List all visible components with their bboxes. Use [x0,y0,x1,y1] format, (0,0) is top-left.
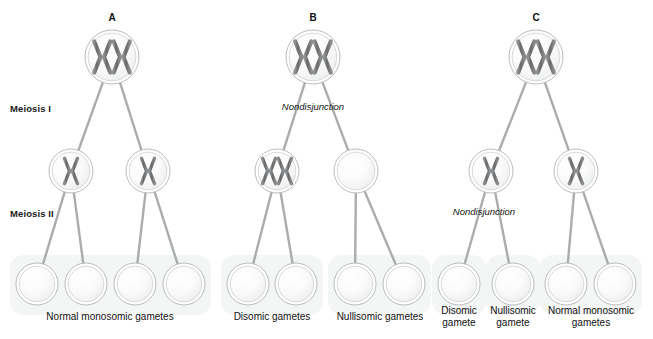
meiosis-i-cell-c-1 [469,149,513,193]
meiosis-nondisjunction-figure: Meiosis I Meiosis II A B C Nondisjunctio… [0,0,653,339]
connector-line [280,192,292,265]
meiosis-i-cell-b-1 [255,149,299,193]
connector-line [78,81,103,151]
parent-cell-b [286,30,340,84]
gamete-cell-a-2 [65,263,107,305]
connector-line [495,192,509,265]
connector-line [137,192,145,264]
panel-letter-c: C [516,12,556,23]
panel-letter-b: B [293,12,333,23]
connector-line [499,81,527,151]
nondisjunction-label-panel-c: Nondisjunction [414,206,554,217]
connector-line [253,191,272,264]
connector-line [464,191,485,265]
parent-cell-c [509,30,563,84]
stage-label-meiosis-i: Meiosis I [10,103,51,114]
connector-line [583,191,609,265]
panel-letter-a: A [92,12,132,23]
connector-line [120,82,142,151]
gamete-cell-a-4 [163,263,205,305]
gamete-cell-c-2 [492,263,534,305]
connector-line [364,190,396,265]
gamete-cell-b-4 [383,263,425,305]
parent-cell-a [85,30,139,84]
connector-line [568,192,574,264]
stage-label-meiosis-ii: Meiosis II [10,208,54,219]
caption-panel-c-normal-monosomic: Normal monosomic gametes [531,305,651,328]
gamete-cell-b-2 [275,263,317,305]
connector-line [154,191,178,265]
nondisjunction-label-panel-b: Nondisjunction [243,101,383,112]
gamete-cell-b-3 [334,263,376,305]
connector-line [545,82,569,152]
connector-line [355,192,356,264]
gamete-cell-a-3 [114,263,156,305]
meiosis-i-cell-a-2 [126,149,170,193]
caption-panel-a-normal-monosomic: Normal monosomic gametes [15,311,205,323]
gamete-cell-a-1 [16,263,58,305]
meiosis-i-cell-b-2 [334,149,378,193]
gamete-cell-c-1 [438,263,480,305]
diagram-canvas [0,0,653,339]
gamete-cell-c-3 [545,263,587,305]
connector-line [74,192,84,264]
connector-line [322,81,348,151]
connector-line [283,82,305,151]
gamete-cell-b-1 [227,263,269,305]
gamete-cell-c-4 [594,263,636,305]
meiosis-i-cell-a-1 [49,149,93,193]
connector-line [43,191,65,265]
meiosis-i-cell-c-2 [554,149,598,193]
